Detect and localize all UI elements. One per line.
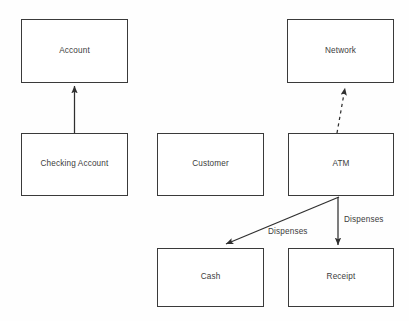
class-box-checking-account[interactable]: Checking Account [21,133,128,196]
edge-atm-to-cash [226,197,339,244]
class-box-receipt[interactable]: Receipt [288,248,394,307]
class-name-receipt: Receipt [327,273,356,281]
edge-label-atm-to-cash: Dispenses [268,228,308,236]
class-box-network[interactable]: Network [287,19,394,83]
class-name-atm: ATM [332,160,349,168]
class-box-account[interactable]: Account [21,19,128,83]
class-name-customer: Customer [192,160,229,168]
edge-atm-to-network [337,88,345,133]
class-name-checking-account: Checking Account [41,160,109,168]
class-name-cash: Cash [201,273,221,281]
class-box-atm[interactable]: ATM [288,133,394,196]
class-box-cash[interactable]: Cash [157,248,264,307]
class-name-network: Network [325,47,356,55]
edge-label-atm-to-receipt: Dispenses [344,216,384,224]
diagram-canvas: Account Checking Account Customer Networ… [0,0,409,321]
class-box-customer[interactable]: Customer [157,133,264,196]
class-name-account: Account [59,47,90,55]
